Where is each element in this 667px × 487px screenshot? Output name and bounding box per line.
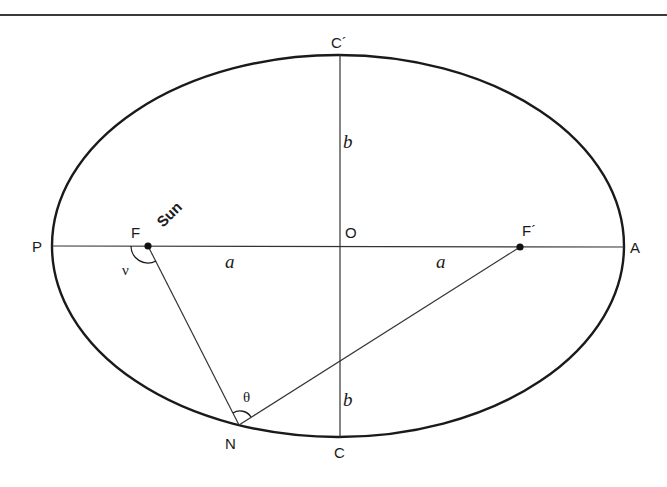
focus-F-dot [144, 242, 151, 249]
focus-Fprime-dot [516, 243, 523, 250]
label-a-right: a [436, 251, 446, 272]
label-b-bottom: b [343, 389, 353, 410]
label-sun: Sun [153, 198, 185, 230]
label-nu: ν [122, 262, 129, 278]
label-N: N [225, 435, 236, 452]
label-P: P [32, 238, 42, 255]
label-C: C [334, 444, 345, 461]
label-C-prime: C´ [331, 34, 347, 51]
major-axis [52, 246, 624, 247]
radius-Fprime-N [239, 247, 520, 425]
label-O: O [345, 224, 357, 241]
orbit-diagram: P A O F F´ C´ C N Sun a a b b ν θ [0, 0, 667, 487]
label-theta: θ [243, 389, 250, 405]
radius-F-N [148, 246, 239, 425]
label-a-left: a [225, 251, 235, 272]
label-F-prime: F´ [522, 222, 536, 239]
label-A: A [630, 239, 640, 256]
label-b-top: b [343, 131, 353, 152]
angle-theta-arc [233, 411, 251, 417]
label-F: F [131, 224, 140, 241]
